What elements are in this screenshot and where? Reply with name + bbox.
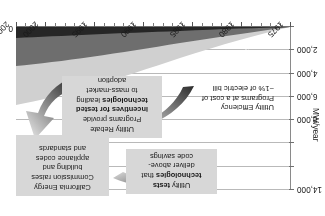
callout-tests-line2-bold: technologies	[156, 171, 202, 180]
band-label-utility-line1: Utility Efficiency	[202, 103, 274, 112]
callout-rebate-line4: technologies leading	[67, 95, 157, 105]
band-label-utility-line2: Programs at a cost of	[202, 93, 274, 102]
origin-zero-label: 0	[8, 24, 13, 33]
y-tick-label-14000: 14,000	[291, 186, 322, 195]
callout-tests-line2: technologies that	[131, 170, 212, 180]
callout-utility-rebate: Utility Rebate Programs provide incentiv…	[62, 76, 162, 138]
callout-rebate-line4-bold: technologies	[102, 96, 148, 105]
y-tick-label-6000: 6,000	[291, 92, 318, 101]
callout-rebate-line4-rest: leading	[76, 96, 102, 105]
callout-rebate-line2: Programs provide	[67, 114, 157, 124]
callout-tests-line1-plain: Utility	[170, 181, 190, 190]
callout-cec-line4: appliance codes	[21, 153, 104, 163]
callout-utility-tests: Utility tests technologies that deliver …	[126, 149, 217, 194]
callout-tests-line4: code savings	[131, 151, 212, 161]
callout-cec-line3: building and	[21, 163, 104, 173]
callout-rebate-line3-bold: incentives for tested	[76, 105, 148, 114]
callout-tests-line2-rest: that	[142, 171, 156, 180]
band-label-building-standards: Building Standards	[208, 48, 272, 57]
y-axis-title: MW/year	[311, 108, 321, 142]
y-tick-label-2000: 2,000	[291, 46, 318, 55]
callout-rebate-line3: incentives for tested	[67, 105, 157, 115]
chart-figure: 2,000 4,000 6,000 8,000 14,000 Appliance…	[0, 0, 325, 216]
x-axis-labels: 1975 1980 1985 1990 1995 2000 2003	[11, 0, 291, 26]
callout-tests-line3: deliver above-	[131, 161, 212, 171]
band-label-utility-efficiency: Utility Efficiency Programs at a cost of…	[202, 84, 274, 112]
callout-rebate-line6: adoption	[67, 75, 157, 85]
callout-cec-codes: California Energy Commission raises buil…	[16, 135, 109, 196]
callout-rebate-line5: to mass-market	[67, 85, 157, 95]
y-tick-label-4000: 4,000	[291, 69, 318, 78]
callout-cec-line1: California Energy	[21, 182, 104, 192]
callout-cec-line5: and standards	[21, 143, 104, 153]
callout-tests-line1: Utility tests	[131, 180, 212, 190]
band-label-utility-line3: ~1% of electric bill	[202, 84, 274, 93]
callout-cec-line2: Commission raises	[21, 172, 104, 182]
callout-tests-line1-bold: tests	[153, 181, 170, 190]
callout-rebate-line1: Utility Rebate	[67, 124, 157, 134]
